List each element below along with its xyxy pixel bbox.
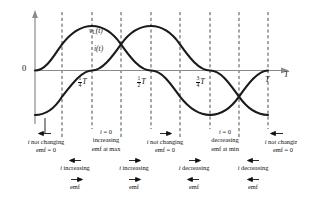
c2-arrowhead-right xyxy=(136,178,141,182)
curve-label-voltage: vL(t) xyxy=(89,27,103,36)
row3-label-4: emf xyxy=(233,183,273,191)
c1-arrowhead-right xyxy=(78,178,83,182)
x-axis-label: T xyxy=(284,71,288,79)
curve-label-current-arg: (t) xyxy=(96,44,103,53)
row2-label-4: i decreasing xyxy=(213,164,293,172)
tick-symbol-T: T xyxy=(82,77,86,86)
tick-label-half-T: 1 2 T xyxy=(137,76,146,88)
b2-arrowhead-right xyxy=(136,159,141,163)
row3-label-2: emf xyxy=(114,183,154,191)
b3-arrowhead-right xyxy=(196,159,201,163)
tick-label-quarter-T: 1 4 T xyxy=(78,76,87,88)
row2-arrows xyxy=(70,159,260,163)
annotation-block-5: i not changing emf = 0 xyxy=(239,138,297,155)
y-axis-arrowhead xyxy=(32,10,38,18)
b1-arrowhead-left xyxy=(70,159,75,163)
c3-arrowhead-left xyxy=(188,178,193,182)
a5-line3: emf = 0 xyxy=(239,146,297,154)
a3-arrowhead-right xyxy=(167,132,172,136)
a5-arrowhead-left xyxy=(271,132,276,136)
curve-label-voltage-arg: (t) xyxy=(96,26,103,35)
c4-arrowhead-left xyxy=(248,178,253,182)
row3-label-1: emf xyxy=(55,183,95,191)
curve-label-current: i(t) xyxy=(94,45,103,53)
tick-label-three-quarter-T: 3 4 T xyxy=(196,76,205,88)
row3-label-3: emf xyxy=(174,183,214,191)
tick-symbol-T: T xyxy=(141,77,145,86)
tick-symbol-T: T xyxy=(200,77,204,86)
a4-line1: i = 0 xyxy=(181,128,269,136)
a1-arrowhead-left xyxy=(39,132,44,136)
a5-line2: i not changing xyxy=(239,138,297,146)
row3-arrows xyxy=(71,178,259,182)
origin-label: 0 xyxy=(22,64,26,73)
tick-label-full-T: T xyxy=(265,76,269,84)
a2-line1: i = 0 xyxy=(62,128,150,136)
b4-arrowhead-left xyxy=(248,159,253,163)
